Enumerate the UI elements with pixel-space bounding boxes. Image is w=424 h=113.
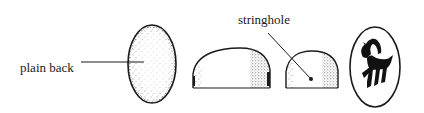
seal-diagram	[0, 0, 424, 113]
side-view-long	[192, 48, 272, 90]
plain-back-label: plain back	[20, 61, 74, 74]
face-view	[350, 27, 400, 107]
side-view-short	[285, 50, 340, 90]
back-view	[128, 25, 176, 103]
stringhole-label: stringhole	[238, 13, 290, 26]
